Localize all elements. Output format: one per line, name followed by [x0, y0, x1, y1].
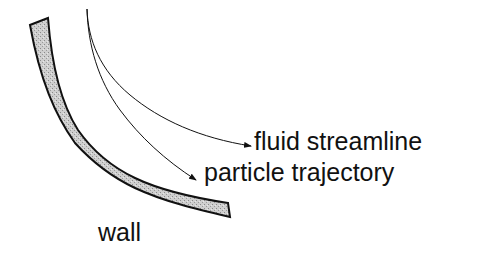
fluid-streamline-label: fluid streamline	[254, 129, 422, 154]
particle-trajectory-curve	[87, 9, 196, 180]
wall-shape	[30, 18, 230, 217]
wall-label: wall	[98, 220, 141, 245]
diagram-canvas: fluid streamline particle trajectory wal…	[0, 0, 493, 254]
particle-trajectory-label: particle trajectory	[204, 160, 394, 185]
fluid-streamline-curve	[87, 9, 251, 146]
